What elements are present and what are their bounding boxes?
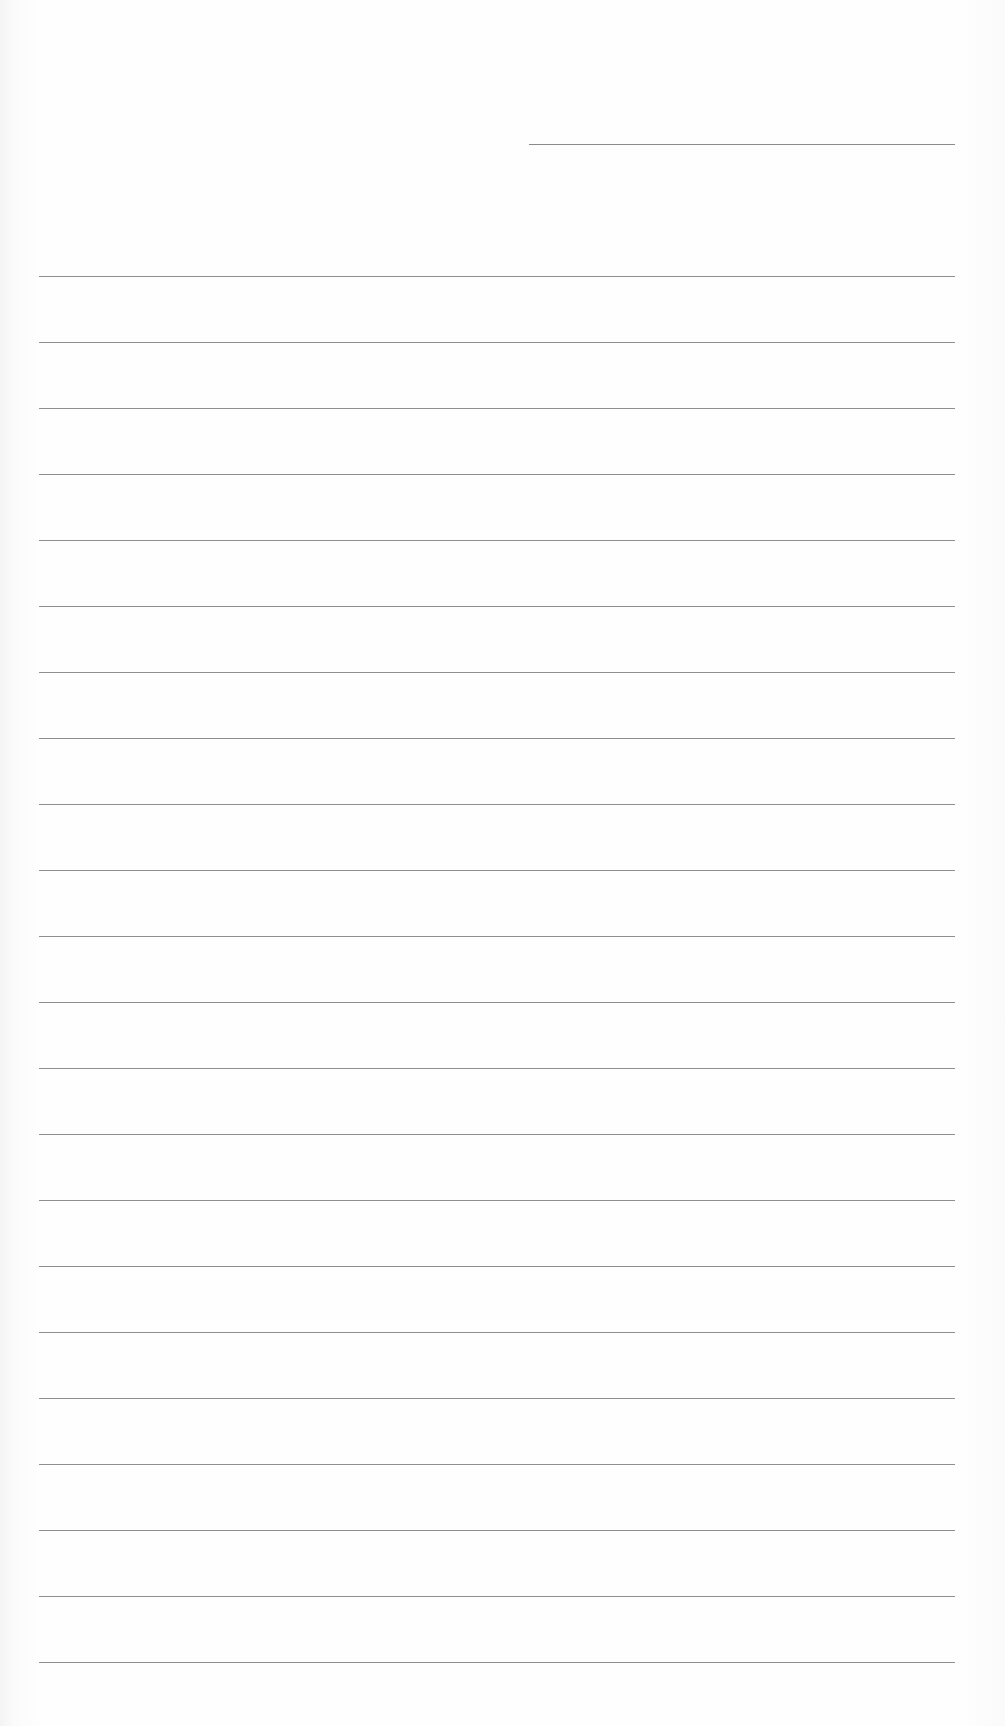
ruled-line — [39, 1068, 955, 1069]
ruled-line — [39, 804, 955, 805]
ruled-line — [39, 738, 955, 739]
ruled-line — [39, 1464, 955, 1465]
ruled-line — [39, 936, 955, 937]
top-field-line[interactable] — [529, 144, 955, 145]
ruled-line — [39, 1002, 955, 1003]
ruled-line — [39, 342, 955, 343]
ruled-line — [39, 1662, 955, 1663]
ruled-line — [39, 1530, 955, 1531]
ruled-line — [39, 870, 955, 871]
lined-page — [0, 0, 1005, 1726]
ruled-line — [39, 408, 955, 409]
ruled-line — [39, 474, 955, 475]
ruled-line — [39, 1134, 955, 1135]
ruled-line — [39, 1200, 955, 1201]
ruled-line — [39, 276, 955, 277]
ruled-line — [39, 1266, 955, 1267]
ruled-line — [39, 540, 955, 541]
ruled-line — [39, 672, 955, 673]
ruled-line — [39, 1332, 955, 1333]
ruled-line — [39, 1596, 955, 1597]
ruled-line — [39, 606, 955, 607]
ruled-line — [39, 1398, 955, 1399]
